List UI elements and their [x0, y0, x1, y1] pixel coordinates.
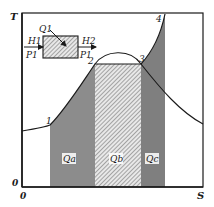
region-qb — [95, 64, 141, 187]
inset-p1-in-label: P1 — [25, 50, 38, 60]
point-1-label: 1 — [46, 116, 52, 126]
x-axis-label: S — [197, 190, 204, 201]
point-3-label: 3 — [139, 54, 145, 64]
point-4-label: 4 — [155, 14, 162, 24]
origin-x-label: 0 — [20, 191, 27, 201]
label-qa: Qa — [63, 154, 76, 164]
inset-heat-label: Q1 — [39, 24, 52, 34]
label-qc: Qc — [146, 154, 158, 164]
exchanger-box — [43, 36, 78, 58]
origin-y-label: 0 — [12, 178, 19, 188]
inset-h2-label: H2 — [81, 36, 96, 46]
region-qa — [50, 64, 95, 187]
inset-exchanger: Q1 H1 P1 H2 P1 — [24, 24, 96, 60]
inset-h1-label: H1 — [27, 36, 42, 46]
label-qb: Qb — [110, 154, 123, 164]
y-axis-label: T — [10, 11, 19, 22]
inset-p1-out-label: P1 — [79, 50, 92, 60]
ts-diagram: Qa Qb Qc 1 2 3 4 T S 0 0 Q1 H1 P1 H2 P1 — [0, 0, 214, 207]
